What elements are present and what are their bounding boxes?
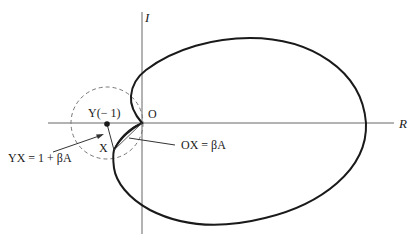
ox-vector-line bbox=[114, 123, 142, 150]
nyquist-curve bbox=[113, 38, 366, 225]
yx-annotation: YX = 1 + βA bbox=[8, 151, 72, 165]
ox-annotation: OX = βA bbox=[181, 138, 226, 152]
critical-point-dot bbox=[104, 121, 110, 127]
critical-point-label: Y(− 1) bbox=[88, 106, 120, 120]
imaginary-axis-label: I bbox=[144, 10, 150, 25]
yx-pointer-arrowhead bbox=[96, 134, 104, 139]
yx-pointer-line bbox=[53, 135, 102, 152]
yx-vector bbox=[107, 124, 114, 150]
real-axis-label: R bbox=[398, 116, 407, 131]
point-x-label: X bbox=[99, 141, 108, 155]
nyquist-diagram: I R O Y(− 1) X YX = 1 + βA OX = βA bbox=[0, 0, 416, 244]
origin-label: O bbox=[148, 107, 157, 121]
